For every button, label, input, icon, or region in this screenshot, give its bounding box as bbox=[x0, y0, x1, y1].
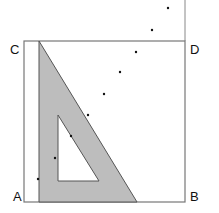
label-b: B bbox=[190, 189, 199, 204]
dot bbox=[87, 114, 89, 116]
dot bbox=[151, 29, 153, 31]
dot bbox=[119, 71, 121, 73]
label-c: C bbox=[10, 42, 19, 57]
dot bbox=[167, 7, 169, 9]
dot bbox=[37, 178, 39, 180]
geometry-diagram: C D A B bbox=[0, 0, 219, 213]
dot bbox=[103, 93, 105, 95]
label-a: A bbox=[13, 189, 22, 204]
label-d: D bbox=[190, 42, 199, 57]
dot bbox=[54, 157, 56, 159]
dot bbox=[135, 51, 137, 53]
dot bbox=[70, 135, 72, 137]
set-square-triangle bbox=[39, 41, 137, 202]
